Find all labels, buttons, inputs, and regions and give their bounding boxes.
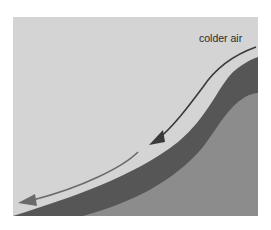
katabatic-flow-diagram: colder air xyxy=(13,17,258,216)
diagram-canvas xyxy=(13,17,258,216)
colder-air-label: colder air xyxy=(199,32,242,44)
